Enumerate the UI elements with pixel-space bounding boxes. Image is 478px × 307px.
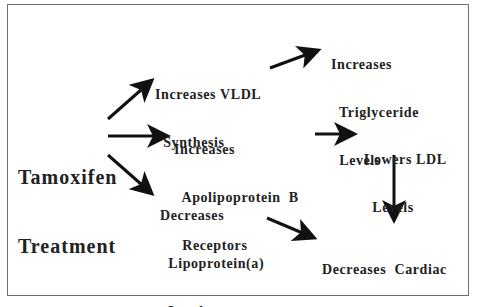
node-line: Triglyceride bbox=[331, 105, 419, 121]
node-tamoxifen-treatment: Tamoxifen Treatment bbox=[18, 120, 117, 281]
node-line: Increases bbox=[174, 142, 299, 158]
node-decreases-cardiac-morbidity: Decreases Cardiac Morbidity and Mortalit… bbox=[322, 230, 447, 307]
node-decreases-lpa: Decreases Lipoprotein(a) Levels bbox=[160, 176, 264, 307]
arrow-vldl-to-triglyceride bbox=[270, 51, 316, 68]
node-line: Decreases Cardiac bbox=[322, 262, 447, 278]
node-line: Decreases bbox=[160, 208, 264, 224]
node-line: Lipoprotein(a) bbox=[160, 256, 264, 272]
arrow-tamoxifen-to-vldl bbox=[108, 82, 150, 119]
node-line: Tamoxifen bbox=[18, 166, 117, 189]
node-line: Increases bbox=[331, 57, 419, 73]
node-line: Increases VLDL bbox=[155, 87, 261, 103]
node-line: Treatment bbox=[18, 235, 117, 258]
node-lowers-ldl: Lowers LDL Levels bbox=[364, 120, 447, 232]
node-line: Levels bbox=[364, 200, 447, 216]
node-line: Lowers LDL bbox=[364, 152, 447, 168]
